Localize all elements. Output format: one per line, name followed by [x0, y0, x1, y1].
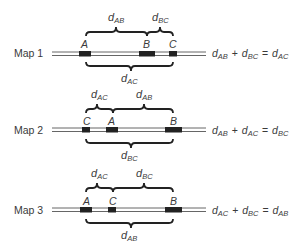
marker-B-label: B — [170, 195, 177, 207]
distance-label-top-1: dAC — [91, 88, 108, 102]
map-3-label: Map 3 — [14, 204, 43, 216]
map-1-braces — [86, 27, 173, 71]
distance-label-bottom: dBC — [121, 149, 138, 163]
marker-A-label: A — [81, 38, 88, 50]
map-2-equation: dAB + dAC = dBC — [212, 124, 288, 138]
distance-label-top-1: dAC — [91, 167, 108, 181]
distance-label-top-2: dBC — [136, 167, 153, 181]
marker-C-box — [82, 127, 90, 133]
marker-B-box — [165, 207, 182, 213]
marker-A-box — [79, 51, 91, 57]
distance-label-top-2: dAB — [136, 88, 152, 102]
marker-A-box — [80, 207, 92, 213]
map-3-chromosome — [52, 207, 206, 213]
marker-B-label: B — [143, 38, 150, 50]
distance-label-bottom: dAC — [121, 72, 138, 86]
marker-B-label: B — [170, 115, 177, 127]
marker-B-box — [139, 51, 155, 57]
distance-label-top-1: dAB — [108, 11, 124, 25]
map-2-braces — [86, 104, 173, 148]
marker-C-box — [108, 207, 116, 213]
marker-B-box — [165, 127, 182, 133]
map-1-equation: dAB + dBC = dAC — [212, 47, 288, 61]
distance-label-top-2: dBC — [152, 11, 169, 25]
distance-label-bottom: dAB — [121, 229, 137, 243]
map-1-chromosome — [52, 51, 206, 57]
marker-C-label: C — [83, 115, 91, 127]
marker-C-label: C — [109, 195, 117, 207]
map-3-equation: dAC + dBC = dAB — [212, 204, 288, 218]
map-3-braces — [86, 183, 173, 228]
marker-A-box — [106, 127, 118, 133]
map-2-label: Map 2 — [14, 124, 43, 136]
marker-A-label: A — [83, 195, 90, 207]
marker-C-label: C — [169, 38, 177, 50]
map-1-label: Map 1 — [14, 47, 43, 59]
map-2-chromosome — [52, 127, 206, 133]
marker-A-label: A — [108, 115, 115, 127]
marker-C-box — [169, 51, 177, 57]
